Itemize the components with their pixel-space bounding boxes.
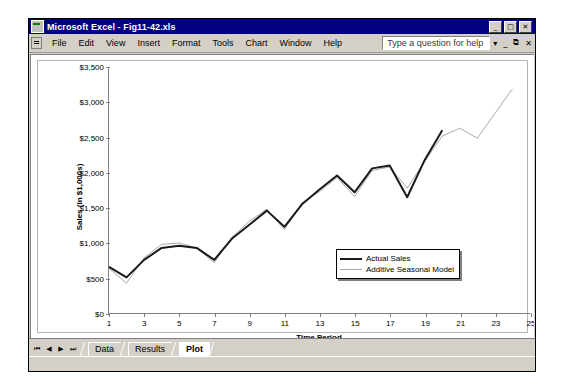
- sheet-tab-bar: ⏮ ◀ ▶ ⏭ Data Results Plot: [29, 338, 535, 356]
- x-axis-tick: [179, 313, 180, 317]
- x-axis-tick: [320, 313, 321, 317]
- x-axis-tick-label: 1: [107, 319, 111, 328]
- legend-label-actual-sales: Actual Sales: [366, 254, 410, 263]
- x-axis-tick-label: 15: [351, 319, 360, 328]
- x-axis-tick: [250, 313, 251, 317]
- plot-area: $0$500$1,000$1,500$2,000$2,500$3,000$3,5…: [108, 67, 530, 314]
- tab-separator: [121, 342, 128, 356]
- previous-sheet-icon[interactable]: ◀: [43, 342, 55, 356]
- x-axis-tick: [531, 313, 532, 317]
- legend-label-additive-seasonal-model: Additive Seasonal Model: [366, 265, 454, 274]
- status-bar: [29, 356, 535, 371]
- chart-series-lines: [109, 67, 530, 313]
- tab-separator: [172, 342, 179, 356]
- x-axis-title: Time Period: [108, 333, 530, 338]
- excel-icon: [31, 20, 44, 33]
- document-restore-button[interactable]: ⧉: [510, 38, 522, 48]
- menu-item-edit[interactable]: Edit: [73, 36, 101, 50]
- menu-item-view[interactable]: View: [100, 36, 131, 50]
- y-axis-tick-label: $1,500: [80, 204, 104, 213]
- legend-swatch-actual-sales: [340, 258, 362, 260]
- y-axis-tick: [106, 173, 110, 174]
- y-axis-tick: [106, 208, 110, 209]
- x-axis-tick: [496, 313, 497, 317]
- x-axis-tick-label: 13: [316, 319, 325, 328]
- window-controls: _ □ ✕: [489, 21, 534, 33]
- chart-canvas[interactable]: Sales (in $1,000s) Time Period $0$500$1,…: [37, 60, 528, 333]
- y-axis-tick-label: $3,000: [80, 98, 104, 107]
- x-axis-tick: [426, 313, 427, 317]
- y-axis-tick-label: $2,000: [80, 168, 104, 177]
- legend-swatch-additive-seasonal-model: [340, 269, 362, 270]
- x-axis-tick: [109, 313, 110, 317]
- chart-sheet: Sales (in $1,000s) Time Period $0$500$1,…: [30, 54, 534, 338]
- x-axis-tick-label: 23: [491, 319, 500, 328]
- close-button[interactable]: ✕: [519, 21, 532, 33]
- sheet-tab-results[interactable]: Results: [128, 342, 172, 356]
- x-axis-tick: [285, 313, 286, 317]
- y-axis-tick-label: $3,500: [80, 63, 104, 72]
- x-axis-tick-label: 3: [142, 319, 146, 328]
- tab-separator: [210, 342, 217, 356]
- x-axis-tick-label: 9: [247, 319, 251, 328]
- menu-item-window[interactable]: Window: [273, 36, 317, 50]
- x-axis-tick-label: 7: [212, 319, 216, 328]
- x-axis-tick: [390, 313, 391, 317]
- y-axis-tick: [106, 67, 110, 68]
- menu-drag-handle[interactable]: [31, 37, 42, 49]
- y-axis-tick-label: $0: [95, 310, 104, 319]
- y-axis-tick: [106, 279, 110, 280]
- x-axis-tick: [215, 313, 216, 317]
- sheet-tabs: Data Results Plot: [81, 341, 217, 356]
- y-axis-tick: [106, 138, 110, 139]
- chevron-down-icon[interactable]: ▾: [490, 39, 500, 48]
- x-axis-tick-label: 19: [421, 319, 430, 328]
- x-axis-tick-label: 21: [456, 319, 465, 328]
- x-axis-tick-label: 5: [177, 319, 181, 328]
- x-axis-tick: [355, 313, 356, 317]
- menu-item-tools[interactable]: Tools: [206, 36, 239, 50]
- document-close-button[interactable]: ✕: [522, 39, 535, 48]
- last-sheet-icon[interactable]: ⏭: [67, 342, 79, 356]
- title-bar: Microsoft Excel - Fig11-42.xls _ □ ✕: [29, 19, 535, 34]
- menu-item-format[interactable]: Format: [166, 36, 207, 50]
- x-axis-tick: [144, 313, 145, 317]
- y-axis-tick-label: $1,000: [80, 239, 104, 248]
- menu-bar: File Edit View Insert Format Tools Chart…: [29, 34, 535, 53]
- menu-item-file[interactable]: File: [46, 36, 73, 50]
- legend-entry-actual-sales: Actual Sales: [340, 253, 454, 264]
- ask-a-question-input[interactable]: Type a question for help: [382, 36, 490, 50]
- first-sheet-icon[interactable]: ⏮: [31, 342, 43, 356]
- menu-item-insert[interactable]: Insert: [131, 36, 166, 50]
- x-axis-tick-label: 11: [281, 319, 289, 328]
- tab-separator: [81, 342, 88, 356]
- y-axis-tick: [106, 102, 110, 103]
- sheet-tab-data[interactable]: Data: [88, 342, 121, 356]
- minimize-button[interactable]: _: [489, 21, 502, 33]
- window-title: Microsoft Excel - Fig11-42.xls: [47, 22, 489, 32]
- sheet-nav-buttons: ⏮ ◀ ▶ ⏭: [31, 341, 79, 356]
- x-axis-tick-label: 17: [386, 319, 395, 328]
- legend-entry-additive-seasonal-model: Additive Seasonal Model: [340, 264, 454, 275]
- menu-item-chart[interactable]: Chart: [239, 36, 273, 50]
- x-axis-tick-label: 25: [527, 319, 534, 328]
- next-sheet-icon[interactable]: ▶: [55, 342, 67, 356]
- document-minimize-button[interactable]: _: [500, 39, 510, 48]
- y-axis-tick: [106, 243, 110, 244]
- restore-button[interactable]: □: [504, 21, 517, 33]
- sheet-tab-plot[interactable]: Plot: [179, 342, 210, 356]
- chart-legend[interactable]: Actual Sales Additive Seasonal Model: [336, 249, 460, 279]
- menu-item-help[interactable]: Help: [317, 36, 348, 50]
- x-axis-tick: [461, 313, 462, 317]
- excel-window: Microsoft Excel - Fig11-42.xls _ □ ✕ Fil…: [28, 18, 536, 372]
- chart-plot-wrapper: Sales (in $1,000s) Time Period $0$500$1,…: [38, 61, 527, 332]
- y-axis-tick-label: $2,500: [80, 133, 104, 142]
- y-axis-tick-label: $500: [86, 274, 104, 283]
